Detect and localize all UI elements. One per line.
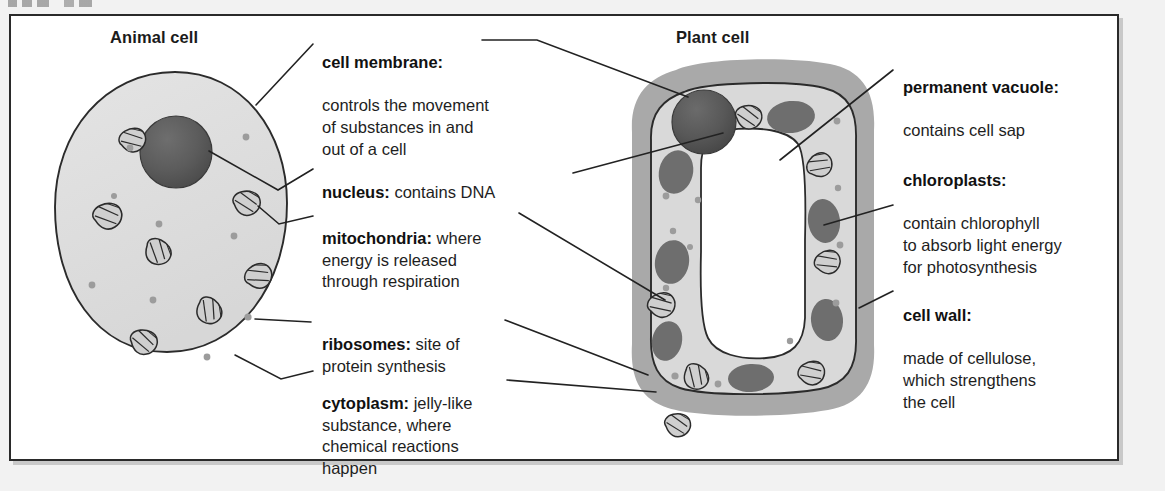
label-description-cell-wall: made of cellulose, which strengthens the… bbox=[903, 349, 1036, 411]
panel-title-plant-cell: Plant cell bbox=[676, 28, 749, 47]
animal-nucleus bbox=[140, 116, 212, 188]
label-permanent-vacuole: permanent vacuole: contains cell sap bbox=[903, 55, 1118, 142]
label-term-cytoplasm: cytoplasm: bbox=[322, 394, 409, 412]
label-description-cell-membrane: controls the movement of substances in a… bbox=[322, 96, 489, 158]
label-term-nucleus: nucleus: bbox=[322, 183, 390, 201]
label-term-permanent-vacuole: permanent vacuole: bbox=[903, 78, 1059, 96]
label-chloroplasts: chloroplasts: contain chlorophyll to abs… bbox=[903, 148, 1118, 279]
label-term-chloroplasts: chloroplasts: bbox=[903, 171, 1007, 189]
diagram-stage: Animal cell Plant cell cell membrane: co… bbox=[0, 0, 1165, 491]
animal-cell-drawing bbox=[55, 72, 287, 360]
label-term-cell-wall: cell wall: bbox=[903, 306, 972, 324]
plant-cell-drawing bbox=[632, 59, 874, 440]
label-cytoplasm: cytoplasm: jelly-like substance, where c… bbox=[322, 371, 522, 480]
label-cell-wall: cell wall: made of cellulose, which stre… bbox=[903, 283, 1118, 414]
label-term-cell-membrane: cell membrane: bbox=[322, 53, 443, 71]
label-mitochondria: mitochondria: where energy is released t… bbox=[322, 206, 522, 293]
label-cell-membrane: cell membrane: controls the movement of … bbox=[322, 30, 507, 161]
label-term-mitochondria: mitochondria: bbox=[322, 229, 432, 247]
label-term-ribosomes: ribosomes: bbox=[322, 335, 411, 353]
label-nucleus: nucleus: contains DNA bbox=[322, 160, 572, 204]
label-description-nucleus: contains DNA bbox=[390, 183, 495, 201]
panel-title-animal-cell: Animal cell bbox=[110, 28, 198, 47]
label-description-permanent-vacuole: contains cell sap bbox=[903, 121, 1025, 139]
label-ribosomes: ribosomes: site of protein synthesis bbox=[322, 312, 517, 377]
label-description-chloroplasts: contain chlorophyll to absorb light ener… bbox=[903, 214, 1062, 276]
plant-permanent-vacuole bbox=[701, 129, 806, 359]
